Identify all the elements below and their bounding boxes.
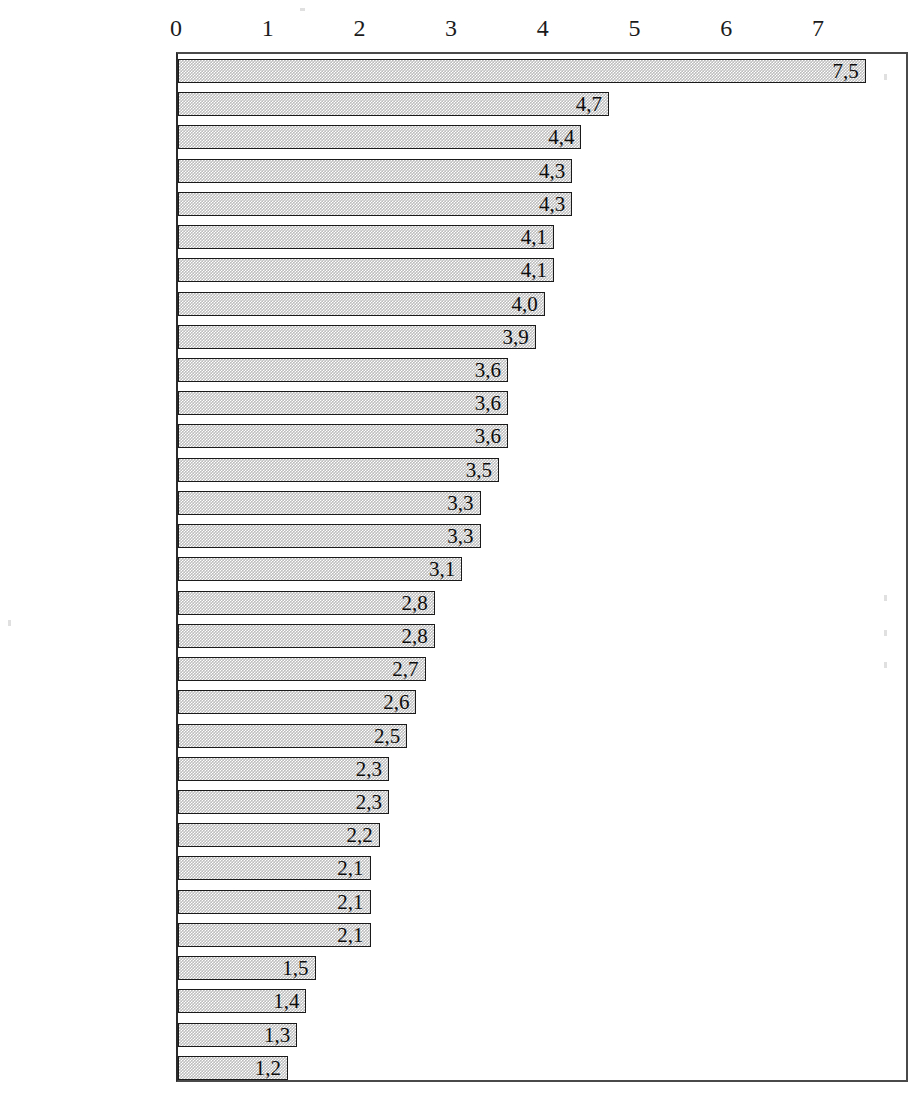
bar-row: Deutschland1,4 [178, 984, 906, 1017]
bar-value-label: 1,3 [264, 1025, 290, 1046]
bar-value-label: 4,1 [521, 227, 547, 248]
bar: 3,6 [178, 358, 508, 382]
bar-row: Norwegen2,8 [178, 586, 906, 619]
bar-value-label: 4,4 [548, 127, 574, 148]
bar-value-label: 2,8 [402, 626, 428, 647]
x-tick-3: 3 [431, 14, 471, 42]
bar-row: Italien1,3 [178, 1018, 906, 1051]
bar-row: Schweiz1,5 [178, 951, 906, 984]
bar-value-label: 3,5 [466, 460, 492, 481]
bar-value-label: 3,3 [447, 526, 473, 547]
scan-speckle [8, 620, 11, 626]
bar: 4,1 [178, 225, 554, 249]
bar-value-label: 7,5 [833, 61, 859, 82]
bar: 3,1 [178, 557, 462, 581]
bar: 3,6 [178, 391, 508, 415]
bar: 1,2 [178, 1056, 288, 1080]
bar: 4,4 [178, 125, 581, 149]
bar-value-label: 2,1 [337, 858, 363, 879]
bar-value-label: 2,6 [383, 692, 409, 713]
bar-value-label: 2,8 [402, 593, 428, 614]
bar-row: Slowak. Rep.4,3 [178, 187, 906, 220]
bar: 2,8 [178, 591, 435, 615]
scan-speckle [300, 8, 305, 11]
bar: 4,0 [178, 292, 545, 316]
plot-area: Irland7,5Luxemburg4,7Korea4,4Island4,3Sl… [176, 52, 908, 1082]
bar-row: Irland7,5 [178, 54, 906, 87]
bar-value-label: 2,3 [356, 759, 382, 780]
bar: 2,1 [178, 923, 371, 947]
bar: 4,3 [178, 192, 572, 216]
bar-value-label: 4,1 [521, 260, 547, 281]
bar-row: Tschech. Rep.2,5 [178, 719, 906, 752]
bar: 4,7 [178, 92, 609, 116]
bar-row: Ungarn4,1 [178, 253, 906, 286]
scan-speckle [884, 74, 887, 80]
bar: 7,5 [178, 59, 866, 83]
bar-row: Neuseeland3,1 [178, 552, 906, 585]
bar: 3,9 [178, 325, 536, 349]
bar-row: OECD insgesamt2,6 [178, 685, 906, 718]
bar-row: Verein. Staaten3,3 [178, 486, 906, 519]
bar-chart: 01234567 Irland7,5Luxemburg4,7Korea4,4Is… [0, 0, 913, 1097]
scan-speckle [884, 630, 887, 636]
bar: 1,4 [178, 989, 306, 1013]
bar-row: Österreich2,2 [178, 818, 906, 851]
bar-row: Australien3,6 [178, 419, 906, 452]
bar-value-label: 2,2 [346, 825, 372, 846]
bar-value-label: 2,5 [374, 726, 400, 747]
x-tick-0: 0 [156, 14, 196, 42]
x-axis-tick-labels: 01234567 [0, 0, 913, 52]
bar-row: Polen4,0 [178, 287, 906, 320]
bar-row: Japan1,2 [178, 1051, 906, 1084]
scan-speckle [884, 662, 887, 668]
bar: 2,6 [178, 690, 416, 714]
bar-value-label: 4,0 [512, 294, 538, 315]
bar-value-label: 4,3 [539, 161, 565, 182]
bar: 3,3 [178, 524, 481, 548]
bar: 1,3 [178, 1023, 297, 1047]
bar-row: Spanien3,6 [178, 386, 906, 419]
bar: 3,6 [178, 424, 508, 448]
bar-row: Schweden2,7 [178, 652, 906, 685]
x-tick-1: 1 [248, 14, 288, 42]
bar-value-label: 1,2 [255, 1058, 281, 1079]
bar-row: Portugal2,3 [178, 752, 906, 785]
bar-value-label: 4,7 [576, 94, 602, 115]
bar: 4,3 [178, 159, 572, 183]
bar: 2,1 [178, 856, 371, 880]
bar: 2,1 [178, 890, 371, 914]
bar-row: Finnland3,5 [178, 453, 906, 486]
bar: 2,3 [178, 757, 389, 781]
bar-row: Kanada3,3 [178, 519, 906, 552]
bar: 2,2 [178, 823, 380, 847]
bar-value-label: 3,3 [447, 493, 473, 514]
x-tick-4: 4 [523, 14, 563, 42]
bar-value-label: 3,6 [475, 426, 501, 447]
x-tick-2: 2 [339, 14, 379, 42]
x-tick-6: 6 [706, 14, 746, 42]
bar-row: Ver. Königreich2,8 [178, 619, 906, 652]
bar-value-label: 3,1 [429, 559, 455, 580]
bar-value-label: 4,3 [539, 194, 565, 215]
bar: 2,3 [178, 790, 389, 814]
bar-row: Türkei4,1 [178, 220, 906, 253]
bar-row: Frankreich2,1 [178, 851, 906, 884]
bar: 4,1 [178, 258, 554, 282]
bar-value-label: 2,3 [356, 792, 382, 813]
x-tick-5: 5 [615, 14, 655, 42]
bar-row: Mexiko3,6 [178, 353, 906, 386]
x-tick-7: 7 [798, 14, 838, 42]
bar-row: Island4,3 [178, 154, 906, 187]
bar-row: Griechenland3,9 [178, 320, 906, 353]
bar-value-label: 3,6 [475, 393, 501, 414]
bar-value-label: 1,5 [282, 958, 308, 979]
scan-speckle [884, 595, 887, 601]
bar-value-label: 1,4 [273, 991, 299, 1012]
bar: 2,7 [178, 657, 426, 681]
bar-value-label: 3,9 [502, 327, 528, 348]
bar-value-label: 3,6 [475, 360, 501, 381]
bar-value-label: 2,1 [337, 892, 363, 913]
bar-row: Luxemburg4,7 [178, 87, 906, 120]
bar-row: Belgien2,1 [178, 918, 906, 951]
